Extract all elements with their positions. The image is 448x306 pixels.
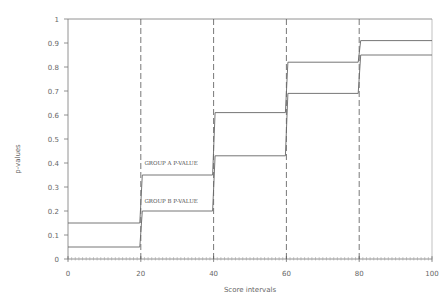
chart: 00.10.20.30.40.50.60.70.80.91 0204060801…: [0, 0, 448, 306]
y-axis-title: p-values: [14, 144, 22, 174]
y-tick-label: 0.7: [48, 88, 59, 96]
y-tick-label: 0.6: [48, 112, 60, 120]
y-axis: 00.10.20.30.40.50.60.70.80.91: [48, 16, 68, 264]
y-tick-label: 0: [55, 256, 59, 264]
x-tick-label: 20: [136, 270, 145, 278]
x-axis: 020406080100: [66, 19, 439, 278]
y-tick-label: 0.2: [48, 208, 59, 216]
x-tick-label: 0: [66, 270, 70, 278]
y-tick-label: 0.8: [48, 64, 59, 72]
x-axis-title: Score intervals: [224, 286, 277, 294]
series-annotation: GROUP A P-VALUE: [144, 160, 197, 166]
y-tick-label: 0.1: [48, 232, 59, 240]
series-annotation: GROUP B P-VALUE: [144, 198, 197, 204]
x-tick-label: 80: [355, 270, 364, 278]
annotations: GROUP A P-VALUEGROUP B P-VALUE: [144, 160, 197, 203]
series-line-group-b: [68, 55, 432, 247]
y-tick-label: 0.5: [48, 136, 59, 144]
series: [68, 41, 432, 247]
y-tick-label: 1: [55, 16, 59, 24]
x-tick-label: 100: [425, 270, 438, 278]
y-tick-label: 0.3: [48, 184, 59, 192]
interval-boundaries: [141, 19, 359, 259]
y-tick-label: 0.4: [48, 160, 60, 168]
series-line-group-a: [68, 41, 432, 223]
x-tick-label: 40: [209, 270, 218, 278]
x-tick-label: 60: [282, 270, 291, 278]
y-tick-label: 0.9: [48, 40, 59, 48]
